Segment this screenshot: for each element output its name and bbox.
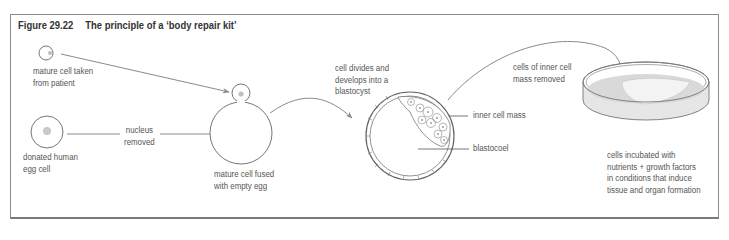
fused-cell-icon xyxy=(210,84,272,164)
label-incubated: cells incubated with nutrients + growth … xyxy=(607,150,701,196)
donated-egg-icon xyxy=(31,116,63,148)
label-cells-removed: cells of inner cell mass removed xyxy=(513,62,571,85)
label-blastocoel: blastocoel xyxy=(473,143,509,155)
label-fused-cell: mature cell fused with empty egg xyxy=(214,169,274,192)
label-nucleus-removed: nucleus removed xyxy=(124,125,155,148)
label-donated-egg: donated human egg cell xyxy=(23,152,78,175)
label-inner-cell-mass: inner cell mass xyxy=(473,110,526,122)
label-mature-cell: mature cell taken from patient xyxy=(33,66,93,89)
blastocyst-icon xyxy=(366,92,454,180)
arrow-fused-to-blastocyst xyxy=(270,98,352,118)
label-cell-divides: cell divides and develops into a blastoc… xyxy=(335,63,389,98)
mature-cell-icon xyxy=(39,46,53,60)
petri-dish-icon xyxy=(583,62,709,120)
